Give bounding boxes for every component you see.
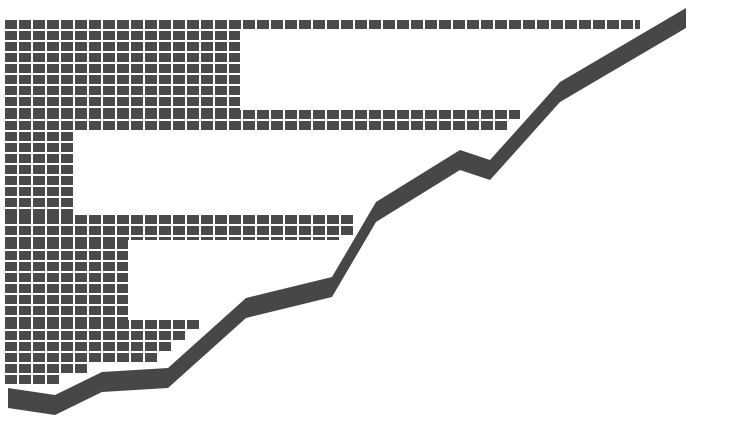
grid-cell bbox=[47, 306, 59, 315]
grid-cell bbox=[89, 75, 101, 84]
grid-cell bbox=[215, 20, 227, 29]
grid-cell bbox=[19, 364, 31, 373]
grid-cell bbox=[229, 110, 241, 119]
grid-cell bbox=[215, 121, 227, 130]
grid-cell bbox=[229, 86, 240, 95]
grid-cell bbox=[215, 110, 227, 119]
grid-cell bbox=[89, 273, 101, 282]
grid-cell bbox=[19, 306, 31, 315]
grid-cell bbox=[5, 364, 17, 373]
grid-cell bbox=[439, 110, 451, 119]
grid-cell bbox=[173, 53, 185, 62]
grid-cell bbox=[89, 317, 101, 320]
grid-cell bbox=[33, 31, 45, 40]
grid-cell bbox=[467, 20, 479, 29]
grid-cell bbox=[159, 42, 171, 51]
grid-cell bbox=[75, 110, 87, 119]
grid-cell bbox=[89, 97, 101, 106]
grid-cell bbox=[61, 42, 73, 51]
grid-cell bbox=[75, 53, 87, 62]
grid-cell bbox=[47, 187, 59, 196]
grid-cell bbox=[215, 226, 227, 235]
grid-cell bbox=[173, 20, 185, 29]
grid-cell bbox=[229, 42, 240, 51]
grid-cell bbox=[173, 86, 185, 95]
grid-cell bbox=[159, 108, 171, 110]
grid-cell bbox=[159, 110, 171, 119]
grid-cell bbox=[75, 42, 87, 51]
grid-cell bbox=[47, 121, 59, 130]
grid-cell bbox=[173, 110, 185, 119]
grid-cell bbox=[5, 320, 17, 329]
grid-cell bbox=[47, 64, 59, 73]
grid-cell bbox=[103, 320, 115, 329]
grid-cell bbox=[75, 121, 87, 130]
grid-cell bbox=[19, 143, 31, 152]
grid-cell bbox=[425, 110, 437, 119]
grid-cell bbox=[117, 86, 129, 95]
grid-cell bbox=[565, 20, 577, 29]
grid-cell bbox=[313, 121, 325, 130]
grid-cell bbox=[271, 20, 283, 29]
grid-cell bbox=[47, 320, 59, 329]
grid-cell bbox=[33, 198, 45, 207]
grid-cell bbox=[61, 20, 73, 29]
grid-cell bbox=[33, 273, 45, 282]
grid-cell bbox=[187, 53, 199, 62]
grid-cell bbox=[47, 165, 59, 174]
grid-cell bbox=[103, 317, 115, 320]
grid-cell bbox=[19, 215, 31, 224]
grid-cell bbox=[89, 42, 101, 51]
grid-cell bbox=[103, 237, 115, 240]
grid-cell bbox=[75, 86, 87, 95]
grid-cell bbox=[19, 320, 31, 329]
grid-cell bbox=[33, 353, 45, 362]
grid-cell bbox=[5, 154, 17, 163]
grid-cell bbox=[285, 237, 297, 240]
grid-cell bbox=[61, 295, 73, 304]
grid-cell bbox=[215, 237, 227, 240]
grid-cell bbox=[271, 237, 283, 240]
grid-cell bbox=[411, 121, 423, 130]
grid-cell bbox=[75, 320, 87, 329]
grid-cell bbox=[47, 262, 59, 271]
grid-cell bbox=[89, 121, 101, 130]
grid-cell bbox=[131, 110, 143, 119]
grid-cell bbox=[33, 187, 45, 196]
grid-cell bbox=[271, 215, 283, 224]
grid-cell bbox=[33, 342, 45, 351]
grid-cell bbox=[117, 75, 129, 84]
grid-cell bbox=[131, 20, 143, 29]
grid-cell bbox=[47, 209, 59, 215]
grid-cell bbox=[229, 20, 241, 29]
grid-cell bbox=[145, 121, 157, 130]
grid-cell bbox=[5, 251, 17, 260]
grid-cell bbox=[19, 176, 31, 185]
grid-cell bbox=[117, 237, 129, 240]
grid-cell bbox=[19, 226, 31, 235]
grid-cell bbox=[33, 295, 45, 304]
grid-cell bbox=[75, 364, 87, 373]
grid-cell bbox=[187, 75, 199, 84]
grid-cell bbox=[89, 20, 101, 29]
grid-cell bbox=[61, 31, 73, 40]
grid-cell bbox=[229, 108, 240, 110]
grid-cell bbox=[201, 53, 213, 62]
grid-cell bbox=[439, 20, 451, 29]
grid-cell bbox=[75, 353, 87, 362]
grid-cell bbox=[89, 237, 101, 240]
grid-cell bbox=[75, 284, 87, 293]
grid-cell bbox=[103, 226, 115, 235]
grid-cell bbox=[19, 240, 31, 249]
grid-cell bbox=[187, 121, 199, 130]
grid-cell bbox=[145, 320, 157, 329]
grid-cell bbox=[117, 64, 129, 73]
grid-cell bbox=[117, 262, 128, 271]
grid-cell bbox=[61, 331, 73, 340]
grid-cell bbox=[187, 320, 199, 329]
grid-cell bbox=[229, 97, 240, 106]
grid-cell bbox=[187, 86, 199, 95]
grid-cell bbox=[61, 108, 73, 110]
grid-cell bbox=[61, 251, 73, 260]
grid-cell bbox=[61, 154, 73, 163]
